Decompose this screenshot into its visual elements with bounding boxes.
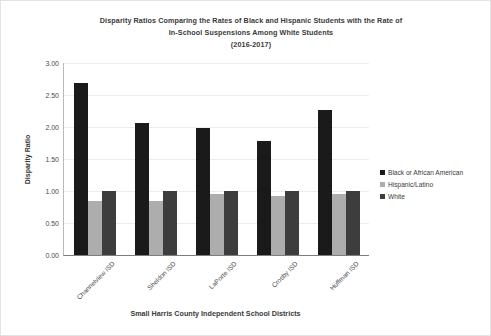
legend-swatch-icon — [380, 170, 385, 175]
chart-title-line-1: Disparity Ratios Comparing the Rates of … — [56, 15, 446, 27]
chart-legend: Black or African AmericanHispanic/Latino… — [380, 169, 463, 205]
bar[interactable] — [163, 191, 177, 255]
x-axis-title: Small Harris County Independent School D… — [63, 309, 368, 318]
bar[interactable] — [257, 141, 271, 255]
bar[interactable] — [318, 110, 332, 255]
bar-group — [247, 63, 308, 255]
y-axis-tick-label: 3.00 — [45, 60, 59, 67]
y-axis-tick-label: 1.00 — [45, 188, 59, 195]
y-axis-title: Disparity Ratio — [21, 63, 35, 255]
bar-group — [308, 63, 369, 255]
bar[interactable] — [149, 201, 163, 255]
y-axis-tick-label: 0.00 — [45, 252, 59, 259]
legend-item[interactable]: Hispanic/Latino — [380, 181, 463, 188]
bar[interactable] — [224, 191, 238, 255]
legend-item-label: Hispanic/Latino — [388, 181, 433, 188]
y-axis-tick-label: 1.50 — [45, 156, 59, 163]
bar-group — [64, 63, 125, 255]
legend-swatch-icon — [380, 182, 385, 187]
chart-title-line-3: (2016-2017) — [56, 39, 446, 51]
bar[interactable] — [285, 191, 299, 255]
bar[interactable] — [74, 83, 88, 255]
bar[interactable] — [102, 191, 116, 255]
bar[interactable] — [210, 194, 224, 255]
chart-container: Disparity Ratios Comparing the Rates of … — [0, 0, 491, 336]
bar[interactable] — [346, 191, 360, 255]
y-axis-tick-label: 2.00 — [45, 124, 59, 131]
legend-item[interactable]: White — [380, 193, 463, 200]
bar[interactable] — [88, 201, 102, 255]
bar-group — [186, 63, 247, 255]
y-axis-tick-label: 0.50 — [45, 220, 59, 227]
x-axis-tick-label: Sheldon ISD — [145, 260, 176, 291]
y-axis-tick-label: 2.50 — [45, 92, 59, 99]
x-axis-tick-label: Huffman ISD — [328, 260, 360, 292]
bar[interactable] — [271, 196, 285, 255]
y-axis-title-text: Disparity Ratio — [25, 134, 32, 183]
legend-item-label: Black or African American — [388, 169, 463, 176]
x-axis-tick-label: Crosby ISD — [270, 260, 299, 289]
legend-item[interactable]: Black or African American — [380, 169, 463, 176]
bar[interactable] — [332, 194, 346, 255]
bar-group — [125, 63, 186, 255]
chart-title-line-2: In-School Suspensions Among White Studen… — [56, 27, 446, 39]
x-axis-tick-label: LaPorte ISD — [207, 260, 237, 290]
bar[interactable] — [135, 123, 149, 255]
bar[interactable] — [196, 128, 210, 255]
chart-title: Disparity Ratios Comparing the Rates of … — [56, 15, 446, 51]
plot-area: 0.000.501.001.502.002.503.00Channelview … — [63, 63, 369, 256]
x-axis-tick-label: Channelview ISD — [75, 260, 116, 301]
legend-swatch-icon — [380, 194, 385, 199]
legend-item-label: White — [388, 193, 405, 200]
